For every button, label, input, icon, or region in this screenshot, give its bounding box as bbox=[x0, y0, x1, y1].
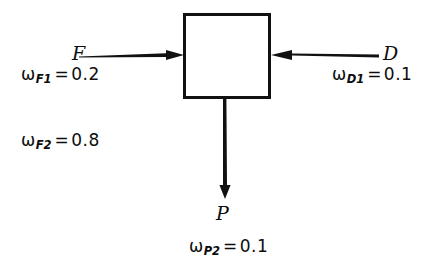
stream-label-product: P bbox=[216, 204, 229, 223]
composition-label-feed-1: ωF1=0.2 bbox=[21, 66, 100, 86]
omega-symbol: ω bbox=[21, 64, 36, 84]
omega-subscript: F2 bbox=[36, 138, 52, 152]
product-stream-arrow bbox=[219, 99, 230, 199]
composition-label-feed-2: ωF2=0.8 bbox=[21, 132, 100, 152]
omega-symbol: ω bbox=[21, 130, 36, 150]
equals-sign: = bbox=[55, 64, 70, 84]
process-unit-box bbox=[185, 15, 270, 98]
stream-label-feed: F bbox=[72, 44, 85, 63]
omega-subscript: F1 bbox=[36, 72, 52, 86]
equals-sign: = bbox=[223, 236, 238, 256]
diluent-stream-arrow bbox=[271, 50, 379, 60]
equals-sign: = bbox=[55, 130, 70, 150]
omega-symbol: ω bbox=[332, 64, 347, 84]
feed-stream-arrow bbox=[79, 50, 184, 60]
composition-value: 0.1 bbox=[240, 236, 269, 256]
omega-subscript: D1 bbox=[347, 72, 365, 86]
omega-subscript: P2 bbox=[204, 244, 220, 258]
omega-symbol: ω bbox=[189, 236, 204, 256]
composition-value: 0.8 bbox=[71, 130, 100, 150]
composition-value: 0.2 bbox=[71, 64, 100, 84]
composition-value: 0.1 bbox=[384, 64, 413, 84]
equals-sign: = bbox=[367, 64, 382, 84]
stream-label-diluent: D bbox=[383, 44, 398, 63]
composition-label-diluent-1: ωD1=0.1 bbox=[332, 66, 412, 86]
diagram-canvas: F D P ωF1=0.2 ωF2=0.8 ωD1=0.1 ωP2=0.1 bbox=[0, 0, 440, 271]
composition-label-product-2: ωP2=0.1 bbox=[189, 238, 268, 258]
